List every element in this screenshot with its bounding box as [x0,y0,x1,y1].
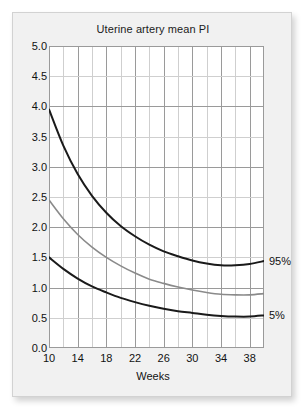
series-label-5pct: 5% [269,309,285,321]
series-curve-95pct [49,109,264,265]
x-tick-label: 26 [149,352,179,364]
plot-area-wrapper [49,46,264,348]
x-tick-label: 38 [235,352,265,364]
y-tick-label: 3.0 [13,161,47,173]
x-tick-label: 10 [34,352,64,364]
y-tick-label: 2.5 [13,191,47,203]
x-axis-title: Weeks [13,370,293,382]
y-tick-label: 3.5 [13,131,47,143]
x-axis-tick-labels: 1014182226303438 [49,352,264,368]
y-tick-label: 1.5 [13,251,47,263]
y-tick-label: 1.0 [13,282,47,294]
chart-card: Uterine artery mean PI 0.00.51.01.52.02.… [12,12,292,397]
x-tick-label: 14 [63,352,93,364]
series-label-95pct: 95% [269,255,291,267]
y-axis-tick-labels: 0.00.51.01.52.02.53.03.54.04.55.0 [13,46,47,348]
x-tick-label: 34 [206,352,236,364]
series-curves [49,46,264,348]
x-tick-label: 18 [91,352,121,364]
y-tick-label: 5.0 [13,40,47,52]
y-tick-label: 2.0 [13,221,47,233]
screenshot-root: Uterine artery mean PI 0.00.51.01.52.02.… [0,0,308,417]
y-tick-label: 0.5 [13,312,47,324]
chart-title: Uterine artery mean PI [13,23,293,35]
y-tick-label: 4.0 [13,100,47,112]
x-tick-label: 22 [120,352,150,364]
y-tick-label: 4.5 [13,70,47,82]
x-tick-label: 30 [177,352,207,364]
